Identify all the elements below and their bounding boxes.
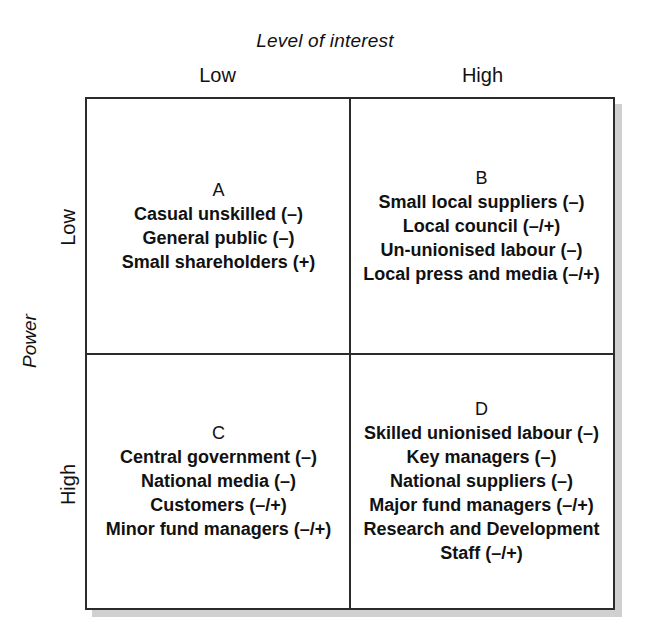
quadrant-d-item: Research and Development — [363, 517, 599, 541]
quadrant-d-item: National suppliers (–) — [390, 469, 573, 493]
y-axis-title: Power — [19, 276, 41, 406]
power-interest-matrix: A Casual unskilled (–) General public (–… — [85, 97, 615, 610]
quadrant-a-item: Small shareholders (+) — [122, 250, 316, 274]
quadrant-c: C Central government (–) National media … — [87, 354, 350, 609]
quadrant-d-item: Major fund managers (–/+) — [369, 493, 594, 517]
quadrant-b-item: Local council (–/+) — [403, 214, 561, 238]
quadrant-b-item: Un-unionised labour (–) — [381, 238, 583, 262]
quadrant-a: A Casual unskilled (–) General public (–… — [87, 99, 350, 354]
quadrant-d-label: D — [475, 397, 488, 421]
x-axis-tick-high: High — [350, 64, 615, 87]
quadrant-c-item: Central government (–) — [120, 445, 317, 469]
x-axis-title: Level of interest — [0, 30, 650, 52]
quadrant-d-item: Key managers (–) — [406, 445, 556, 469]
x-axis-tick-low: Low — [85, 64, 350, 87]
quadrant-b-label: B — [475, 166, 487, 190]
quadrant-b-item: Local press and media (–/+) — [363, 262, 600, 286]
quadrant-a-item: General public (–) — [142, 226, 294, 250]
y-axis-tick-low: Low — [57, 158, 80, 298]
quadrant-b-item: Small local suppliers (–) — [378, 190, 584, 214]
quadrant-a-label: A — [212, 178, 224, 202]
quadrant-c-label: C — [212, 421, 225, 445]
quadrant-c-item: National media (–) — [141, 469, 296, 493]
quadrant-c-item: Minor fund managers (–/+) — [106, 517, 332, 541]
quadrant-d-item: Skilled unionised labour (–) — [364, 421, 599, 445]
quadrant-b: B Small local suppliers (–) Local counci… — [350, 99, 613, 354]
quadrant-d: D Skilled unionised labour (–) Key manag… — [350, 354, 613, 609]
quadrant-a-item: Casual unskilled (–) — [134, 202, 303, 226]
quadrant-c-item: Customers (–/+) — [150, 493, 287, 517]
quadrant-d-item: Staff (–/+) — [440, 541, 523, 565]
y-axis-tick-high: High — [57, 415, 80, 555]
